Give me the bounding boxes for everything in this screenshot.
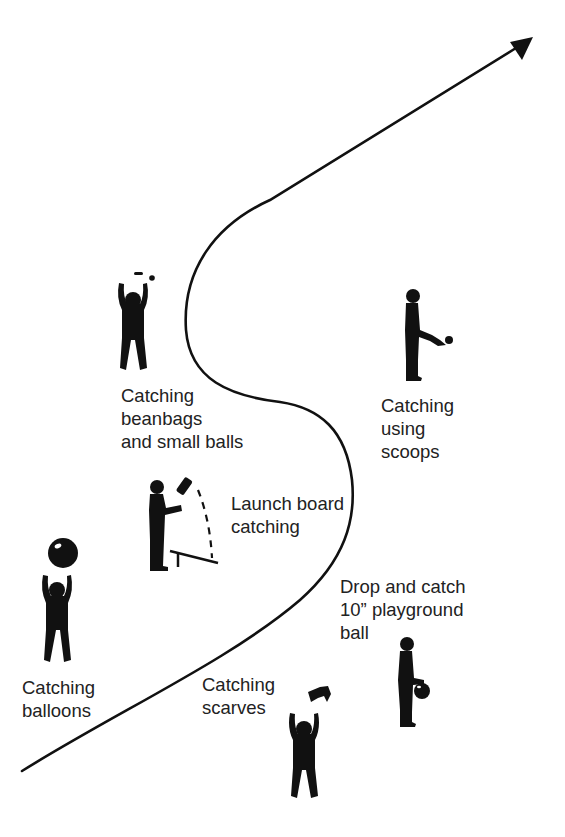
label-line: Launch board bbox=[231, 492, 344, 515]
label-line: Catching bbox=[202, 673, 275, 696]
label-line: Catching bbox=[121, 384, 243, 407]
label-launch-board: Launch board catching bbox=[231, 492, 344, 538]
label-line: scarves bbox=[202, 696, 275, 719]
label-scoops: Catching using scoops bbox=[381, 394, 454, 463]
label-line: balloons bbox=[22, 699, 95, 722]
label-line: ball bbox=[340, 621, 465, 644]
label-drop-catch: Drop and catch 10” playground ball bbox=[340, 575, 465, 644]
child-catching-scarf-icon bbox=[289, 686, 331, 798]
label-beanbags: Catching beanbags and small balls bbox=[121, 384, 243, 453]
label-line: 10” playground bbox=[340, 598, 465, 621]
child-bouncing-ball-icon bbox=[398, 637, 430, 727]
label-line: beanbags bbox=[121, 407, 243, 430]
child-scoop-catch-icon bbox=[405, 289, 453, 381]
label-line: and small balls bbox=[121, 430, 243, 453]
label-line: catching bbox=[231, 515, 344, 538]
label-line: using bbox=[381, 417, 454, 440]
label-line: scoops bbox=[381, 440, 454, 463]
label-line: Catching bbox=[381, 394, 454, 417]
label-scarves: Catching scarves bbox=[202, 673, 275, 719]
child-launch-board-icon bbox=[149, 477, 218, 571]
label-line: Drop and catch bbox=[340, 575, 465, 598]
child-catching-balloon-icon bbox=[42, 538, 78, 662]
label-balloons: Catching balloons bbox=[22, 676, 95, 722]
child-catching-beanbag-icon bbox=[118, 272, 155, 370]
label-line: Catching bbox=[22, 676, 95, 699]
